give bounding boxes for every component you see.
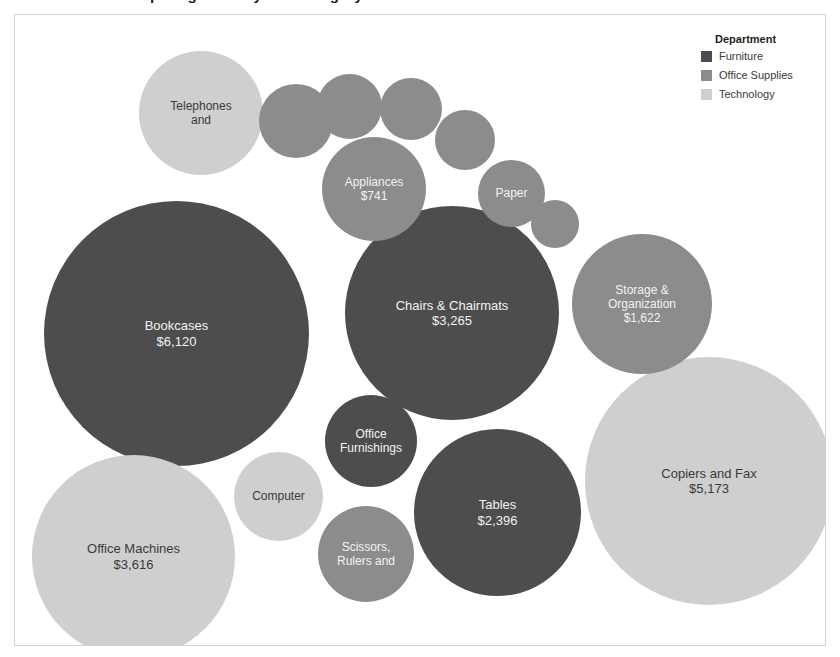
bubble-label: Telephones and <box>166 99 235 127</box>
legend-item-technology[interactable]: Technology <box>701 88 826 100</box>
bubble-label: Bookcases $6,120 <box>141 318 213 349</box>
bubble[interactable]: Bookcases $6,120 <box>44 201 309 466</box>
legend-swatch-furniture <box>701 51 712 62</box>
bubble-label: Tables $2,396 <box>474 497 522 528</box>
bubble-label: Scissors, Rulers and <box>333 540 399 568</box>
legend-title: Department <box>701 33 826 45</box>
legend-swatch-office-supplies <box>701 70 712 81</box>
legend-label-furniture: Furniture <box>719 50 763 62</box>
legend-item-office-supplies[interactable]: Office Supplies <box>701 69 826 81</box>
bubble-plot-area: Bookcases $6,120Chairs & Chairmats $3,26… <box>15 15 825 645</box>
bubble[interactable] <box>380 78 442 140</box>
legend-label-office-supplies: Office Supplies <box>719 69 793 81</box>
legend-item-furniture[interactable]: Furniture <box>701 50 826 62</box>
bubble[interactable] <box>317 74 382 139</box>
bubble[interactable]: Telephones and <box>139 51 263 175</box>
bubble[interactable]: Copiers and Fax $5,173 <box>585 357 826 605</box>
bubble[interactable] <box>435 110 495 170</box>
bubble-label: Chairs & Chairmats $3,265 <box>392 298 513 329</box>
legend-swatch-technology <box>701 89 712 100</box>
chart-panel: Bookcases $6,120Chairs & Chairmats $3,26… <box>14 14 826 646</box>
bubble-label: Computer <box>248 489 309 503</box>
legend: Department Furniture Office Supplies Tec… <box>701 33 826 107</box>
bubble[interactable]: Scissors, Rulers and <box>318 506 414 602</box>
bubble-label: Office Furnishings <box>336 427 406 455</box>
bubble-label: Copiers and Fax $5,173 <box>657 466 760 497</box>
bubble-label: Storage & Organization $1,622 <box>604 283 680 325</box>
bubble[interactable]: Appliances $741 <box>322 137 426 241</box>
bubble[interactable]: Office Machines $3,616 <box>32 455 235 646</box>
bubble[interactable]: Office Furnishings <box>325 395 417 487</box>
bubble[interactable] <box>531 200 579 248</box>
bubble[interactable]: Computer <box>234 452 323 541</box>
bubble[interactable]: Tables $2,396 <box>414 429 581 596</box>
bubble[interactable]: Storage & Organization $1,622 <box>572 234 712 374</box>
bubble-label: Appliances $741 <box>341 175 408 203</box>
legend-label-technology: Technology <box>719 88 775 100</box>
bubble-label: Office Machines $3,616 <box>83 541 184 572</box>
page-title: Bubble chart comparing sales by sub-cate… <box>20 0 363 3</box>
bubble-label: Paper <box>491 186 531 200</box>
